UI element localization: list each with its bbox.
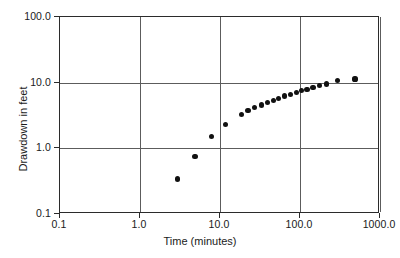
y-axis-tick-label: 1.0 bbox=[36, 141, 51, 153]
data-point bbox=[192, 154, 197, 159]
data-point bbox=[352, 76, 357, 81]
x-gridline bbox=[140, 17, 141, 212]
y-axis-tick bbox=[54, 16, 59, 17]
y-axis-title: Drawdown in feet bbox=[17, 59, 29, 199]
x-axis-tick-label: 100.0 bbox=[286, 218, 313, 230]
data-point bbox=[245, 108, 250, 113]
x-gridline bbox=[220, 17, 221, 212]
chart-figure: 0.11.010.0100.01000.00.11.010.0100.0 Tim… bbox=[0, 0, 400, 258]
data-point bbox=[282, 93, 287, 98]
x-gridline bbox=[300, 17, 301, 212]
data-point bbox=[294, 90, 299, 95]
plot-area bbox=[59, 16, 379, 213]
x-axis-tick-label: 0.1 bbox=[52, 218, 67, 230]
data-point bbox=[175, 176, 180, 181]
y-axis-tick-label: 100.0 bbox=[24, 10, 51, 22]
x-gridline bbox=[380, 17, 381, 212]
x-axis-tick-label: 1.0 bbox=[132, 218, 147, 230]
x-axis-title: Time (minutes) bbox=[0, 235, 400, 247]
y-axis-tick bbox=[54, 82, 59, 83]
y-axis-tick-label: 0.1 bbox=[36, 207, 51, 219]
y-axis-tick bbox=[54, 147, 59, 148]
y-axis-tick-label: 10.0 bbox=[30, 76, 51, 88]
x-axis-tick-label: 10.0 bbox=[209, 218, 230, 230]
data-point bbox=[310, 85, 315, 90]
x-axis-tick-label: 1000.0 bbox=[363, 218, 396, 230]
y-gridline bbox=[60, 83, 378, 84]
data-point bbox=[324, 81, 329, 86]
data-point bbox=[259, 102, 264, 107]
data-point bbox=[304, 87, 309, 92]
y-axis-tick bbox=[54, 213, 59, 214]
data-point bbox=[288, 92, 293, 97]
data-point bbox=[239, 112, 244, 117]
y-gridline bbox=[60, 148, 378, 149]
